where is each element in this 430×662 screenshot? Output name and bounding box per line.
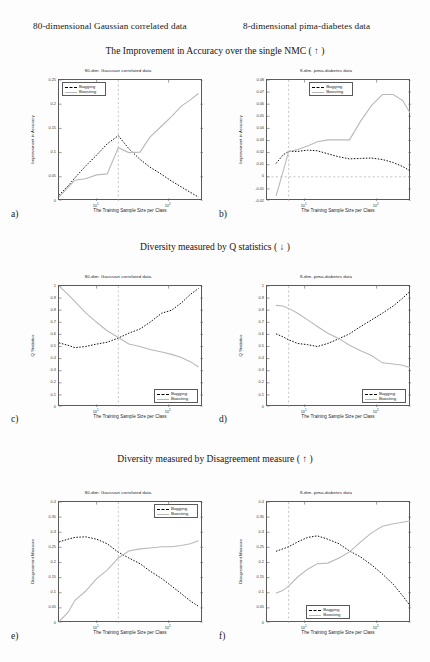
chart-legend[interactable]: BaggingBoosting bbox=[154, 389, 198, 403]
y-axis-tick-label: 0.1 bbox=[33, 589, 56, 594]
y-axis-tick-label: 0 bbox=[33, 620, 56, 625]
y-axis-tick-label: -0.02 bbox=[241, 198, 264, 203]
y-axis-tick-label: 0.6 bbox=[241, 331, 264, 336]
y-axis-tick-label: 0.25 bbox=[241, 544, 264, 549]
legend-item-boosting: Boosting bbox=[157, 396, 195, 401]
y-axis-tick-label: 0.35 bbox=[33, 514, 56, 519]
solid-line-icon bbox=[157, 512, 169, 516]
y-axis-tick-label: 0.15 bbox=[33, 125, 56, 130]
y-axis-tick-label: 0.7 bbox=[33, 319, 56, 324]
dashed-line-icon bbox=[309, 608, 321, 612]
y-axis-tick-label: 0.1 bbox=[33, 149, 56, 154]
chart-c: 80-dim. Gaussian correlated data00.10.20… bbox=[28, 272, 208, 432]
panel-letter-d: d) bbox=[219, 414, 227, 424]
chart-a: 80-dim. Gaussian correlated data00.050.1… bbox=[28, 66, 208, 226]
chart-legend[interactable]: BaggingBoosting bbox=[306, 605, 350, 619]
dashed-line-icon bbox=[65, 85, 77, 89]
y-axis-tick-label: 0.15 bbox=[33, 574, 56, 579]
solid-line-icon bbox=[309, 613, 321, 617]
figure-page: 80-dimensional Gaussian correlated data … bbox=[0, 0, 430, 662]
y-axis-tick-label: 0.01 bbox=[241, 161, 264, 166]
solid-line-icon bbox=[365, 397, 377, 401]
section-header-disagreement: Diversity measured by Disagreement measu… bbox=[0, 453, 430, 464]
chart-legend[interactable]: BaggingBoosting bbox=[309, 82, 353, 96]
plot-canvas bbox=[59, 80, 203, 201]
x-axis-label: The Training Sample Size per Class bbox=[266, 414, 410, 419]
chart-e: 80-dim. Gaussian correlated data00.050.1… bbox=[28, 488, 208, 648]
legend-item-boosting: Boosting bbox=[365, 396, 403, 401]
series-bagging bbox=[59, 288, 199, 347]
x-axis-label: The Training Sample Size per Class bbox=[58, 630, 202, 635]
chart-title: 80-dim. Gaussian correlated data bbox=[28, 68, 208, 73]
y-axis-tick-label: 0.2 bbox=[33, 559, 56, 564]
plot-area bbox=[58, 501, 202, 622]
chart-legend[interactable]: BaggingBoosting bbox=[62, 82, 106, 96]
chart-b: 8-dim. pima-diabetes data-0.02-0.0100.01… bbox=[236, 66, 416, 226]
legend-label-boosting: Boosting bbox=[323, 612, 340, 617]
chart-title: 8-dim. pima-diabetes data bbox=[236, 68, 416, 73]
y-axis-tick-label: 0.1 bbox=[33, 392, 56, 397]
y-axis-tick-label: 0.3 bbox=[241, 529, 264, 534]
chart-title: 80-dim. Gaussian correlated data bbox=[28, 274, 208, 279]
x-axis-label: The Training Sample Size per Class bbox=[266, 208, 410, 213]
y-axis-label: Disagreement Measure bbox=[30, 501, 35, 622]
series-bagging bbox=[276, 536, 410, 606]
y-axis-tick-label: 0.8 bbox=[241, 307, 264, 312]
plot-area bbox=[266, 285, 410, 406]
series-bagging bbox=[59, 136, 199, 197]
y-axis-tick-label: 0.3 bbox=[33, 367, 56, 372]
plot-area bbox=[266, 501, 410, 622]
series-boosting bbox=[276, 521, 410, 593]
y-axis-tick-label: 0.1 bbox=[241, 392, 264, 397]
y-axis-tick-label: 0.03 bbox=[241, 137, 264, 142]
y-axis-tick-label: 0.4 bbox=[33, 499, 56, 504]
y-axis-label: Improvement in Accuracy bbox=[238, 79, 243, 200]
section-header-qstat: Diversity measured by Q statistics ( ↓ ) bbox=[0, 241, 430, 252]
x-axis-label: The Training Sample Size per Class bbox=[58, 414, 202, 419]
y-axis-tick-label: 0.2 bbox=[33, 101, 56, 106]
legend-item-boosting: Boosting bbox=[157, 511, 195, 516]
y-axis-label: Q Statistics bbox=[30, 285, 35, 406]
panel-letter-e: e) bbox=[11, 631, 18, 641]
y-axis-tick-label: 0.4 bbox=[33, 355, 56, 360]
solid-line-icon bbox=[65, 90, 77, 94]
chart-legend[interactable]: BaggingBoosting bbox=[362, 389, 406, 403]
legend-label-boosting: Boosting bbox=[171, 396, 188, 401]
x-axis-label: The Training Sample Size per Class bbox=[58, 208, 202, 213]
chart-title: 8-dim. pima-diabetes data bbox=[236, 274, 416, 279]
series-boosting bbox=[276, 305, 410, 367]
y-axis-tick-label: 0.2 bbox=[33, 379, 56, 384]
series-boosting bbox=[59, 541, 199, 622]
y-axis-tick-label: 0.15 bbox=[241, 574, 264, 579]
y-axis-tick-label: 0.3 bbox=[33, 529, 56, 534]
y-axis-tick-label: 0.9 bbox=[241, 295, 264, 300]
y-axis-tick-label: 0.06 bbox=[241, 101, 264, 106]
plot-area bbox=[266, 79, 410, 200]
chart-title: 80-dim. Gaussian correlated data bbox=[28, 490, 208, 495]
y-axis-tick-label: 0.04 bbox=[241, 125, 264, 130]
plot-area bbox=[58, 285, 202, 406]
panel-letter-a: a) bbox=[11, 209, 18, 219]
plot-canvas bbox=[267, 80, 411, 201]
plot-canvas bbox=[59, 502, 203, 623]
series-boosting bbox=[59, 286, 199, 367]
legend-item-boosting: Boosting bbox=[312, 89, 350, 94]
section-header-accuracy: The Improvement in Accuracy over the sin… bbox=[0, 45, 430, 56]
y-axis-tick-label: 0 bbox=[33, 198, 56, 203]
column-header-right: 8-dimensional pima-diabetes data bbox=[243, 21, 370, 31]
y-axis-tick-label: 0.1 bbox=[241, 589, 264, 594]
legend-label-boosting: Boosting bbox=[379, 396, 396, 401]
legend-label-boosting: Boosting bbox=[171, 511, 188, 516]
y-axis-label: Disagreement Measure bbox=[238, 501, 243, 622]
y-axis-tick-label: 0.7 bbox=[241, 319, 264, 324]
y-axis-tick-label: 0.05 bbox=[241, 113, 264, 118]
y-axis-label: Q Statistics bbox=[238, 285, 243, 406]
y-axis-tick-label: 0.2 bbox=[241, 559, 264, 564]
legend-label-boosting: Boosting bbox=[79, 89, 96, 94]
y-axis-tick-label: 0.6 bbox=[33, 331, 56, 336]
y-axis-tick-label: 0 bbox=[241, 173, 264, 178]
dashed-line-icon bbox=[312, 85, 324, 89]
y-axis-tick-label: 0.5 bbox=[33, 343, 56, 348]
chart-legend[interactable]: BaggingBoosting bbox=[154, 504, 198, 518]
y-axis-tick-label: 0 bbox=[241, 620, 264, 625]
